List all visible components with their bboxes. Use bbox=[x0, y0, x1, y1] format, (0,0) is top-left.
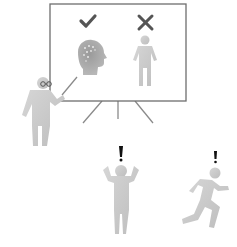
exclamation-icon bbox=[119, 146, 123, 162]
easel-legs bbox=[83, 101, 153, 123]
presentation-board bbox=[50, 4, 186, 101]
exclamation-icon bbox=[214, 151, 217, 163]
shocked-person-figure bbox=[103, 165, 139, 234]
illustration bbox=[0, 0, 237, 247]
running-person-figure bbox=[182, 168, 229, 229]
